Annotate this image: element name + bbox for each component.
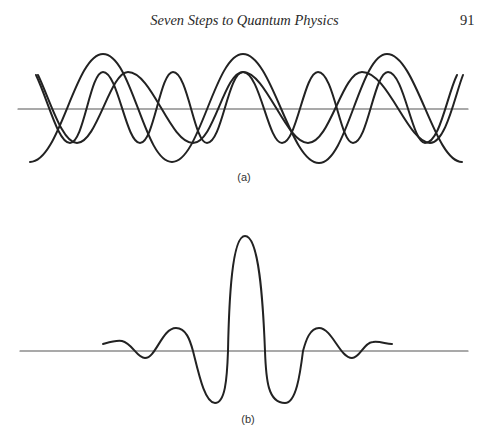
panel-a-waves — [18, 54, 468, 163]
panel-b-wavepacket — [20, 236, 468, 403]
wave-packet — [103, 236, 392, 403]
figure-waves — [0, 0, 489, 442]
panel-b-label: (b) — [228, 413, 268, 425]
wave-d-short — [36, 72, 457, 143]
panel-a-label: (a) — [224, 171, 264, 183]
